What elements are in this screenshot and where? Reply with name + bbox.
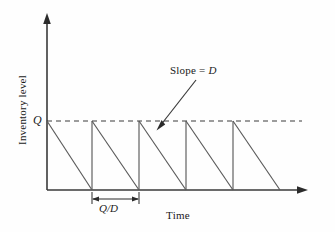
slope-annotation-leader-line (160, 80, 196, 126)
slope-annotation-symbol: D (208, 64, 216, 76)
x-axis-label: Time (166, 209, 190, 221)
cycle-dimension-arrowhead-right-icon (132, 196, 139, 201)
y-axis-arrowhead-icon (43, 13, 51, 24)
inventory-depletion-segment-2 (92, 121, 139, 190)
x-axis-arrowhead-icon (297, 186, 308, 194)
inventory-depletion-segment-3 (139, 121, 186, 190)
cycle-dimension-arrowhead-left-icon (92, 196, 99, 201)
slope-annotation-prefix: Slope = (170, 64, 208, 76)
y-axis-label: Inventory level (16, 62, 28, 158)
slope-annotation-label: Slope = D (170, 64, 217, 76)
inventory-depletion-segment-5 (233, 121, 280, 190)
cycle-length-label: Q/D (99, 202, 118, 214)
inventory-sawtooth-figure: Inventory level Q Slope = D Q/D Time (0, 0, 335, 232)
y-axis-tick-label-q: Q (33, 113, 42, 128)
inventory-depletion-segment-1 (47, 121, 92, 190)
figure-canvas (0, 0, 335, 232)
inventory-depletion-segment-4 (186, 121, 233, 190)
